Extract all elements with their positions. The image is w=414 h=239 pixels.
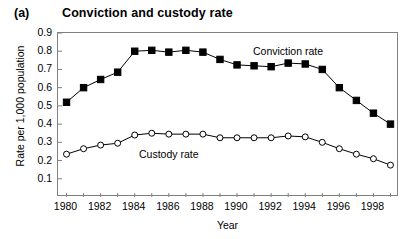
data-point-marker xyxy=(387,121,393,127)
data-point-marker xyxy=(302,134,308,140)
series-annotation-custody: Custody rate xyxy=(139,148,199,160)
data-point-marker xyxy=(132,132,138,138)
data-point-marker xyxy=(166,131,172,137)
y-tick-label: 0.4 xyxy=(26,118,52,129)
data-point-marker xyxy=(64,151,70,157)
data-point-marker xyxy=(166,49,172,55)
data-point-marker xyxy=(285,133,291,139)
y-tick-label: 0.2 xyxy=(26,155,52,166)
data-point-marker xyxy=(268,135,274,141)
data-point-marker xyxy=(183,131,189,137)
title-row: (a) Conviction and custody rate xyxy=(0,6,414,24)
y-tick-label: 0.5 xyxy=(26,100,52,111)
y-tick-label: 0.7 xyxy=(26,63,52,74)
data-point-marker xyxy=(217,135,223,141)
data-point-marker xyxy=(98,142,104,148)
data-point-marker xyxy=(353,151,359,157)
data-point-marker xyxy=(63,99,69,105)
data-point-marker xyxy=(234,62,240,68)
data-point-marker xyxy=(200,49,206,55)
data-point-marker xyxy=(81,146,87,152)
plot-area xyxy=(57,32,398,196)
data-point-marker xyxy=(319,66,325,72)
x-tick-label: 1998 xyxy=(352,201,392,212)
data-point-marker xyxy=(353,97,359,103)
data-point-marker xyxy=(387,162,393,168)
data-point-marker xyxy=(149,130,155,136)
data-point-marker xyxy=(149,47,155,53)
y-tick-label: 0.9 xyxy=(26,27,52,38)
chart-svg xyxy=(58,33,399,197)
data-point-marker xyxy=(370,110,376,116)
data-point-marker xyxy=(200,131,206,137)
y-tick-label: 0.1 xyxy=(26,173,52,184)
data-point-marker xyxy=(370,156,376,162)
data-point-marker xyxy=(217,56,223,62)
x-axis-tick-labels: 1980198219841986198819901992199419961998 xyxy=(0,201,414,215)
series-annotation-conviction: Conviction rate xyxy=(253,45,323,57)
data-point-marker xyxy=(114,69,120,75)
data-point-marker xyxy=(336,146,342,152)
x-axis-label: Year xyxy=(57,219,398,231)
y-axis-label: Rate per 1,000 population xyxy=(14,31,26,181)
data-point-marker xyxy=(302,61,308,67)
data-point-marker xyxy=(285,60,291,66)
data-point-marker xyxy=(319,139,325,145)
data-point-marker xyxy=(234,135,240,141)
data-point-marker xyxy=(336,84,342,90)
data-point-marker xyxy=(80,84,86,90)
data-point-marker xyxy=(183,47,189,53)
figure-panel-a: (a) Conviction and custody rate 0.10.20.… xyxy=(0,0,414,239)
data-point-marker xyxy=(97,76,103,82)
y-tick-label: 0.3 xyxy=(26,136,52,147)
data-point-marker xyxy=(115,140,121,146)
y-tick-label: 0.6 xyxy=(26,82,52,93)
data-point-marker xyxy=(268,64,274,70)
data-point-marker xyxy=(132,48,138,54)
y-tick-label: 0.8 xyxy=(26,45,52,56)
chart-title: Conviction and custody rate xyxy=(62,6,233,20)
data-point-marker xyxy=(251,63,257,69)
data-point-marker xyxy=(251,135,257,141)
